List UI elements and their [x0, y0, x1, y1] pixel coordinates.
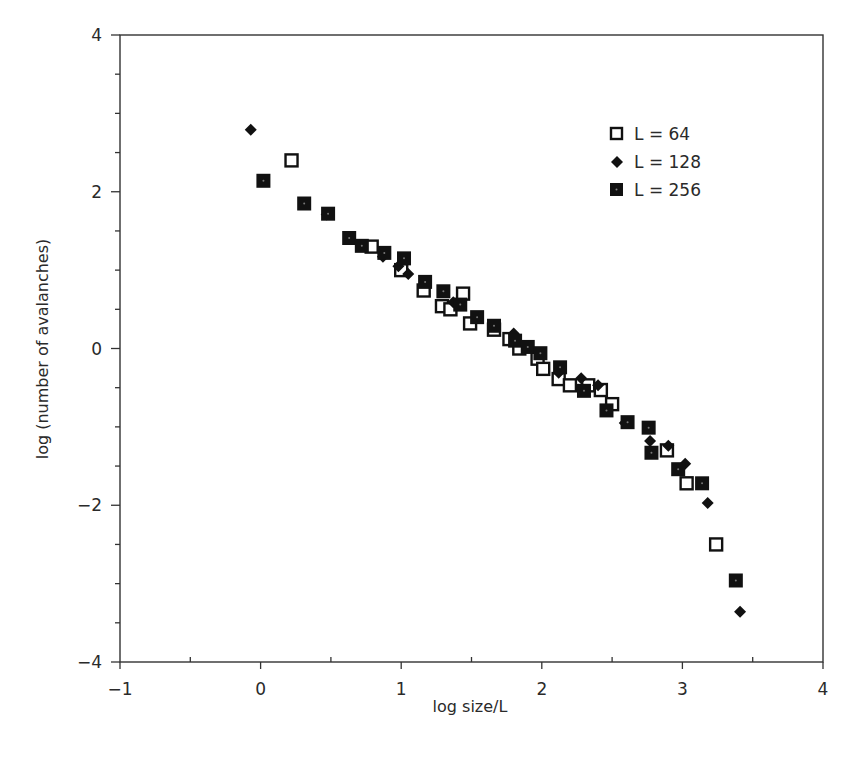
open-square-marker — [564, 379, 576, 391]
open-square-marker — [286, 154, 298, 166]
legend-item-l128: L = 128 — [611, 152, 701, 172]
square-center-dot — [735, 579, 737, 581]
y-tick-label: −2 — [77, 495, 102, 515]
square-center-dot — [348, 237, 350, 239]
y-tick-label: 4 — [91, 25, 102, 45]
y-tick-label: 2 — [91, 182, 102, 202]
open-square-marker — [537, 363, 549, 375]
x-tick-label: 3 — [677, 679, 688, 699]
legend: L = 64 L = 128 L = 256 — [610, 124, 701, 200]
y-tick-label: −4 — [77, 652, 102, 672]
square-center-dot — [459, 304, 461, 306]
x-tick-label: 4 — [818, 679, 829, 699]
y-tick-label: 0 — [91, 339, 102, 359]
x-axis-ticks: −101234 — [107, 657, 828, 699]
square-center-dot — [605, 409, 607, 411]
filled-diamond-marker — [734, 606, 746, 618]
legend-label: L = 64 — [634, 124, 690, 144]
square-center-dot — [476, 316, 478, 318]
square-center-dot — [701, 482, 703, 484]
x-tick-label: −1 — [107, 679, 132, 699]
square-center-dot — [327, 213, 329, 215]
x-tick-label: 2 — [536, 679, 547, 699]
scatter-chart: −101234 −4−2024 log size/L log (number o… — [0, 0, 859, 776]
square-center-dot — [677, 468, 679, 470]
square-center-dot — [262, 180, 264, 182]
filled-diamond-marker — [702, 497, 714, 509]
square-center-dot-icon — [616, 189, 618, 191]
filled-diamond-marker — [245, 124, 257, 136]
legend-label: L = 256 — [634, 180, 701, 200]
x-tick-label: 1 — [396, 679, 407, 699]
legend-item-l64: L = 64 — [611, 124, 690, 144]
square-center-dot — [527, 346, 529, 348]
x-tick-label: 0 — [255, 679, 266, 699]
square-center-dot — [493, 325, 495, 327]
square-center-dot — [627, 421, 629, 423]
legend-label: L = 128 — [634, 152, 701, 172]
filled-diamond-marker — [644, 435, 656, 447]
square-center-dot — [442, 290, 444, 292]
square-center-dot — [539, 352, 541, 354]
square-center-dot — [424, 281, 426, 283]
square-center-dot — [303, 203, 305, 205]
square-center-dot — [361, 245, 363, 247]
plot-frame — [120, 35, 823, 662]
filled-diamond-icon — [611, 156, 623, 168]
square-center-dot — [650, 452, 652, 454]
square-center-dot — [648, 427, 650, 429]
square-center-dot — [559, 366, 561, 368]
x-axis-title: log size/L — [433, 697, 508, 716]
square-center-dot — [514, 340, 516, 342]
open-square-icon — [611, 128, 622, 139]
open-square-marker — [710, 538, 722, 550]
legend-item-l256: L = 256 — [610, 180, 701, 200]
y-axis-ticks: −4−2024 — [77, 25, 120, 672]
square-center-dot — [583, 390, 585, 392]
square-center-dot — [403, 257, 405, 259]
y-axis-title: log (number of avalanches) — [33, 239, 52, 460]
square-center-dot — [383, 252, 385, 254]
open-square-marker — [681, 477, 693, 489]
